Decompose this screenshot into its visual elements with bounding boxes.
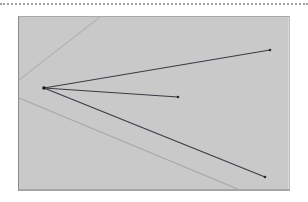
upper-ray-endpoint <box>269 49 272 52</box>
lower-guide-line <box>19 98 240 190</box>
upper-ray-line <box>44 50 270 88</box>
guide-lines <box>19 17 240 190</box>
middle-ray-endpoint <box>177 96 180 99</box>
rays <box>44 50 270 177</box>
lower-ray-line <box>44 88 265 177</box>
upper-guide-line <box>19 17 100 80</box>
lower-ray-endpoint <box>264 176 267 179</box>
origin-point <box>42 86 46 90</box>
points <box>42 49 271 179</box>
diagram-canvas <box>0 0 308 202</box>
ray-diagram <box>0 0 308 202</box>
